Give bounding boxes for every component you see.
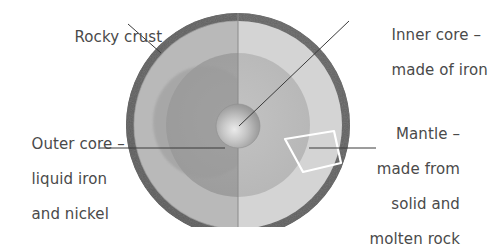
label-mantle-line2: made from [377,160,460,178]
label-outer-core-line2: liquid iron [31,170,107,188]
label-inner-core-line1: Inner core – [391,26,481,44]
label-rocky-crust: Rocky crust [55,11,162,64]
label-mantle-line3: solid and [391,195,460,213]
label-mantle-line1: Mantle – [396,125,460,143]
label-outer-core-line1: Outer core – [31,135,124,153]
label-outer-core-line3: and nickel [31,205,108,223]
label-outer-core: Outer core – liquid iron and nickel [12,118,125,241]
label-rocky-crust-line1: Rocky crust [74,28,162,46]
label-mantle-line4: molten rock [370,230,460,248]
label-inner-core: Inner core – made of iron [372,9,488,97]
inner-core-layer [216,104,260,148]
label-mantle: Mantle – made from solid and molten rock [350,108,460,248]
label-inner-core-line2: made of iron [391,61,487,79]
